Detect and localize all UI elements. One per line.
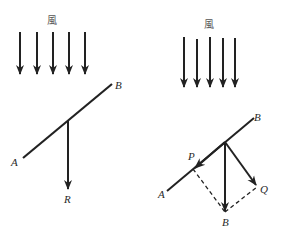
label-b-left: B — [115, 79, 122, 91]
wind-arrows-left — [20, 32, 85, 74]
dashed-line-p-b — [193, 169, 225, 212]
label-b-bottom: B — [222, 216, 229, 228]
label-a-left: A — [10, 156, 18, 168]
label-p: P — [187, 150, 195, 162]
wind-arrows-right — [184, 37, 235, 87]
component-arrow-p — [195, 142, 225, 168]
label-a-right: A — [157, 188, 165, 200]
component-arrow-q — [225, 142, 256, 185]
wind-label-right: 風 — [204, 19, 214, 30]
label-r: R — [63, 193, 71, 205]
label-q: Q — [260, 183, 268, 195]
right-figure: 風 B A P Q B — [157, 19, 268, 228]
dashed-line-b-q — [225, 187, 257, 212]
label-b-right: B — [254, 111, 261, 123]
force-diagram: 風 A B R 風 B A — [0, 0, 281, 234]
left-figure: 風 A B R — [10, 15, 122, 205]
wind-label-left: 風 — [47, 15, 57, 26]
